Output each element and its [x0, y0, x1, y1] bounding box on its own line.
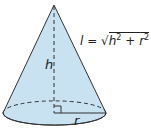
radius-label: r	[74, 113, 79, 128]
formula-lhs: l	[80, 34, 83, 48]
slant-height-formula: l = √h2 + r2	[80, 33, 149, 48]
formula-h-exp: 2	[116, 33, 121, 42]
sqrt-symbol: √	[101, 34, 109, 48]
height-label: h	[45, 57, 53, 72]
formula-r-exp: 2	[144, 33, 149, 42]
formula-equals: =	[87, 34, 97, 48]
formula-plus: +	[125, 34, 135, 48]
